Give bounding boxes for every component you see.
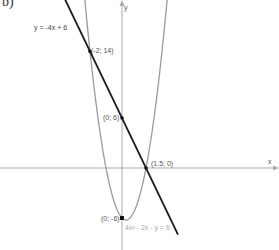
point-label: (0; -6): [101, 215, 120, 222]
point-marker: [144, 166, 148, 170]
point-label: (1.5; 0): [151, 160, 173, 167]
point-marker: [120, 216, 124, 220]
point-label: (0; 6): [103, 114, 119, 121]
x-axis-label: x: [268, 158, 272, 165]
y-axis-label: y: [124, 4, 128, 11]
point-label: (-2; 14): [91, 47, 114, 54]
line-equation-label: y = -4x + 6: [34, 24, 67, 31]
graph-canvas: [0, 0, 279, 250]
x-axis-arrow-icon: [273, 166, 279, 171]
parabola-equation-label: 4x² - 2x - y = 6: [125, 224, 170, 231]
point-marker: [120, 116, 124, 120]
